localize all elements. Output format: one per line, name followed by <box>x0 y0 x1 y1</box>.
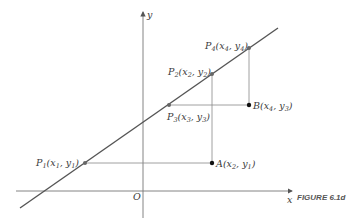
x-axis-label: x <box>287 194 293 205</box>
y-axis-label: y <box>146 9 153 20</box>
point-a <box>210 161 214 165</box>
label-b: B(x4, y3) <box>252 100 293 113</box>
label-p3: P3(x3, y3) <box>166 111 210 124</box>
label-p1: P1(x1, y1) <box>35 157 79 170</box>
diagram-canvas: y x O P1(x1, y1) P2(x2, y2) P3(x3, y3) P… <box>0 0 358 222</box>
figure-caption: FIGURE 6.1d <box>297 193 347 202</box>
main-line <box>20 28 278 208</box>
label-a: A(x2, y1) <box>215 158 256 171</box>
point-p3 <box>167 103 171 107</box>
point-b <box>247 103 251 107</box>
point-p1 <box>83 161 87 165</box>
label-p4: P4(x4, y4) <box>204 40 248 53</box>
origin-label: O <box>133 191 141 202</box>
label-p2: P2(x2, y2) <box>167 66 211 79</box>
